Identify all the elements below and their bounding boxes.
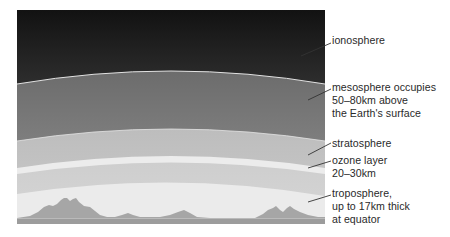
ozone-layer-label: ozone layer 20–30km [332, 154, 387, 180]
atmosphere-layers-diagram: ionosphere mesosphere occupies 50–80km a… [0, 0, 450, 237]
troposphere-label: troposphere, up to 17km thick at equator [332, 187, 410, 226]
stratosphere-label: stratosphere [332, 137, 392, 150]
mesosphere-label: mesosphere occupies 50–80km above the Ea… [332, 81, 436, 120]
ionosphere-label: ionosphere [332, 34, 385, 47]
ground-strip [17, 219, 325, 224]
